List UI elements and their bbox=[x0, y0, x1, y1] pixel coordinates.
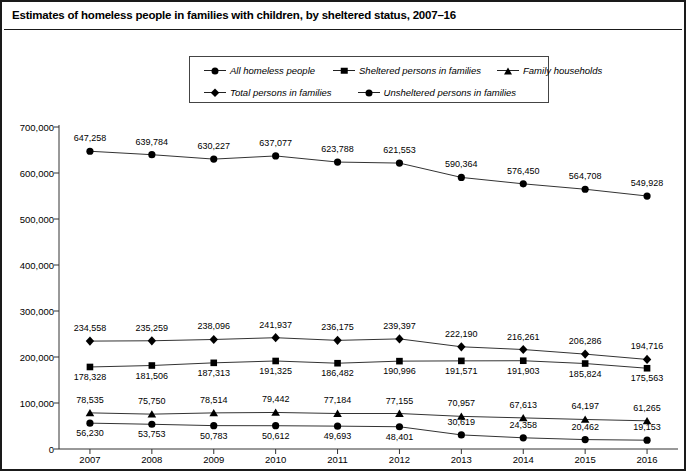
y-axis-tick-label: 200,000 bbox=[2, 352, 54, 363]
data-point bbox=[210, 335, 218, 344]
x-axis-tick-label: 2015 bbox=[560, 454, 610, 465]
data-point-label: 186,482 bbox=[321, 368, 354, 378]
data-point bbox=[458, 358, 465, 365]
x-axis-tick-label: 2011 bbox=[313, 454, 363, 465]
data-point bbox=[643, 437, 650, 444]
data-point bbox=[271, 333, 279, 342]
y-axis-tick-label: 400,000 bbox=[2, 260, 54, 271]
data-point-label: 78,514 bbox=[200, 395, 228, 405]
y-axis-tick-label: 700,000 bbox=[2, 122, 54, 133]
data-point-label: 77,155 bbox=[386, 396, 414, 406]
data-point bbox=[334, 423, 341, 430]
data-point bbox=[519, 345, 527, 354]
data-point-label: 623,788 bbox=[321, 144, 354, 154]
data-point-label: 20,462 bbox=[571, 422, 599, 432]
data-point-label: 194,716 bbox=[631, 341, 664, 351]
data-point bbox=[86, 148, 93, 155]
data-point bbox=[148, 421, 155, 428]
y-axis-tick-label: 100,000 bbox=[2, 398, 54, 409]
data-point-label: 639,784 bbox=[136, 137, 169, 147]
data-point bbox=[210, 155, 217, 162]
y-axis-tick-label: 300,000 bbox=[2, 306, 54, 317]
data-point-label: 191,325 bbox=[259, 366, 292, 376]
data-point bbox=[396, 358, 403, 365]
data-point-label: 238,096 bbox=[197, 321, 230, 331]
data-point-label: 61,265 bbox=[633, 403, 661, 413]
data-point-label: 190,996 bbox=[383, 366, 416, 376]
data-point-label: 647,258 bbox=[74, 133, 107, 143]
data-point bbox=[520, 434, 527, 441]
data-point-label: 206,286 bbox=[569, 336, 602, 346]
data-point bbox=[272, 152, 279, 159]
data-point-label: 50,783 bbox=[200, 431, 228, 441]
data-point bbox=[148, 336, 156, 345]
data-point-label: 30,619 bbox=[448, 417, 476, 427]
data-point bbox=[272, 422, 279, 429]
data-point-label: 56,230 bbox=[76, 428, 104, 438]
data-point-label: 236,175 bbox=[321, 322, 354, 332]
data-point-label: 78,535 bbox=[76, 395, 104, 405]
data-point-label: 67,613 bbox=[509, 400, 537, 410]
y-axis-tick-label: 600,000 bbox=[2, 168, 54, 179]
data-point bbox=[333, 336, 341, 345]
x-axis-tick-label: 2008 bbox=[127, 454, 177, 465]
data-point-label: 234,558 bbox=[74, 323, 107, 333]
data-point-label: 630,227 bbox=[197, 141, 230, 151]
data-point bbox=[457, 342, 465, 351]
data-point-label: 216,261 bbox=[507, 332, 540, 342]
data-point bbox=[272, 358, 279, 365]
data-point bbox=[458, 431, 465, 438]
data-point-label: 637,077 bbox=[259, 138, 292, 148]
data-point-label: 239,397 bbox=[383, 321, 416, 331]
x-axis-tick-label: 2007 bbox=[65, 454, 115, 465]
data-point-label: 24,358 bbox=[509, 420, 537, 430]
data-point bbox=[520, 180, 527, 187]
data-point-label: 19,153 bbox=[633, 422, 661, 432]
data-point-label: 64,197 bbox=[571, 401, 599, 411]
x-axis-tick-label: 2013 bbox=[436, 454, 486, 465]
data-point bbox=[334, 158, 341, 165]
data-point bbox=[582, 436, 589, 443]
y-axis-tick-label: 500,000 bbox=[2, 214, 54, 225]
data-point-label: 75,750 bbox=[138, 396, 166, 406]
data-point-label: 48,401 bbox=[386, 432, 414, 442]
data-point bbox=[396, 423, 403, 430]
data-point-label: 185,824 bbox=[569, 369, 602, 379]
data-point-label: 621,553 bbox=[383, 145, 416, 155]
data-point bbox=[210, 360, 217, 367]
y-axis-tick-label: 0 bbox=[2, 444, 54, 455]
data-point-label: 70,957 bbox=[448, 398, 476, 408]
data-point-label: 549,928 bbox=[631, 178, 664, 188]
data-point-label: 178,328 bbox=[74, 372, 107, 382]
data-point-label: 191,903 bbox=[507, 366, 540, 376]
data-point bbox=[334, 360, 341, 367]
data-point-label: 564,708 bbox=[569, 171, 602, 181]
data-point bbox=[458, 174, 465, 181]
plot-area: 0100,000200,000300,000400,000500,000600,… bbox=[2, 2, 686, 471]
data-point bbox=[643, 355, 651, 364]
data-point-label: 191,571 bbox=[445, 366, 478, 376]
data-point-label: 175,563 bbox=[631, 373, 664, 383]
data-point-label: 576,450 bbox=[507, 166, 540, 176]
data-point bbox=[643, 192, 650, 199]
data-point-label: 235,259 bbox=[136, 323, 169, 333]
data-point bbox=[520, 357, 527, 364]
x-axis-tick-label: 2012 bbox=[374, 454, 424, 465]
data-point bbox=[148, 151, 155, 158]
data-point bbox=[86, 337, 94, 346]
data-point-label: 53,753 bbox=[138, 429, 166, 439]
data-point-label: 187,313 bbox=[197, 368, 230, 378]
data-point bbox=[581, 350, 589, 359]
data-point bbox=[582, 186, 589, 193]
data-point bbox=[86, 420, 93, 427]
data-point-label: 241,937 bbox=[259, 320, 292, 330]
data-point-label: 222,190 bbox=[445, 329, 478, 339]
data-point-label: 77,184 bbox=[324, 395, 352, 405]
data-point-label: 50,612 bbox=[262, 431, 290, 441]
data-point bbox=[210, 422, 217, 429]
data-point-label: 590,364 bbox=[445, 159, 478, 169]
data-point bbox=[395, 334, 403, 343]
data-point-label: 181,506 bbox=[136, 371, 169, 381]
data-point bbox=[582, 360, 589, 367]
data-point bbox=[149, 362, 156, 369]
